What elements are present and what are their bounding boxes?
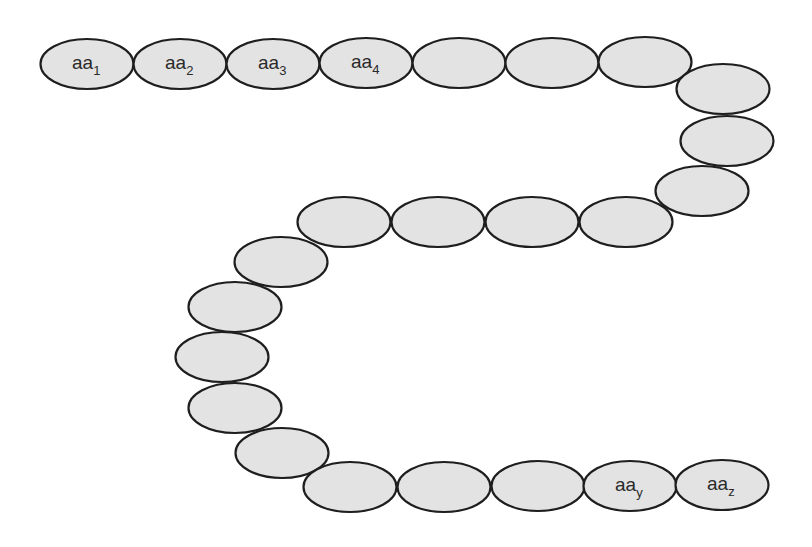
bead-shape: [298, 197, 391, 247]
amino-acid-bead: [681, 116, 774, 166]
bead-shape: [398, 462, 491, 512]
bead-shape: [304, 462, 397, 512]
bead-shape: [580, 197, 673, 247]
amino-acid-bead: [392, 197, 485, 247]
bead-shape: [599, 37, 692, 87]
bead-shape: [492, 461, 585, 511]
amino-acid-bead: [413, 38, 506, 88]
bead-shape: [506, 38, 599, 88]
bead-shape: [235, 237, 328, 287]
amino-acid-bead: aa3: [227, 39, 320, 89]
amino-acid-bead: aa1: [41, 39, 134, 89]
bead-shape: [486, 197, 579, 247]
amino-acid-bead: [580, 197, 673, 247]
bead-shape: [189, 383, 282, 433]
amino-acid-bead: [189, 282, 282, 332]
amino-acid-bead: [506, 38, 599, 88]
chain-canvas: aa1aa2aa3aa4aayaaz: [0, 0, 812, 547]
amino-acid-bead: [486, 197, 579, 247]
bead-shape: [189, 282, 282, 332]
amino-acid-bead: [492, 461, 585, 511]
bead-shape: [176, 332, 269, 382]
amino-acid-bead: [176, 332, 269, 382]
amino-acid-bead: [398, 462, 491, 512]
bead-shape: [413, 38, 506, 88]
bead-shape: [392, 197, 485, 247]
bead-shape: [681, 116, 774, 166]
amino-acid-bead: aaz: [676, 460, 769, 510]
amino-acid-bead: [304, 462, 397, 512]
amino-acid-bead: [677, 64, 770, 114]
polypeptide-chain-diagram: aa1aa2aa3aa4aayaaz: [0, 0, 812, 547]
amino-acid-bead: aa4: [320, 38, 413, 88]
amino-acid-bead: aay: [584, 461, 677, 511]
amino-acid-bead: aa2: [134, 39, 227, 89]
bead-shape: [656, 166, 749, 216]
amino-acid-bead: [656, 166, 749, 216]
amino-acid-bead: [599, 37, 692, 87]
amino-acid-bead: [298, 197, 391, 247]
bead-shape: [677, 64, 770, 114]
amino-acid-bead: [189, 383, 282, 433]
amino-acid-bead: [235, 237, 328, 287]
